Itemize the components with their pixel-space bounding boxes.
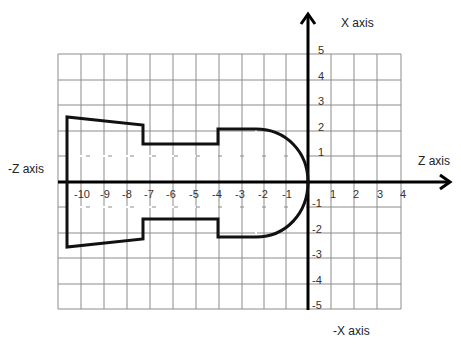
x-tick-label: -5: [312, 300, 322, 311]
x-tick-label: 2: [318, 122, 324, 133]
z-tick-label: 4: [400, 189, 406, 200]
z-tick-label: -4: [212, 189, 222, 200]
z-tick-label: -8: [122, 189, 132, 200]
x-tick-label: -4: [312, 275, 322, 286]
z-tick-label: -7: [144, 189, 154, 200]
z-tick-label: -2: [258, 189, 268, 200]
x-axis-label: X axis: [341, 17, 374, 29]
neg-z-axis-label: -Z axis: [8, 163, 44, 175]
z-tick-label: 2: [353, 189, 359, 200]
neg-x-axis-label: -X axis: [333, 325, 370, 337]
coordinate-diagram: X axis -X axis Z axis -Z axis -10-9-8-7-…: [0, 0, 461, 349]
z-tick-label: -5: [189, 189, 199, 200]
x-tick-label: -3: [312, 249, 322, 260]
z-tick-label: -10: [74, 189, 90, 200]
z-tick-label: -3: [235, 189, 245, 200]
axes: [58, 14, 450, 310]
x-tick-label: 3: [318, 96, 324, 107]
z-axis-label: Z axis: [418, 155, 450, 167]
x-tick-label: 4: [318, 71, 324, 82]
x-tick-label: -1: [312, 198, 322, 209]
diagram-canvas: [0, 0, 461, 349]
x-tick-label: -2: [312, 224, 322, 235]
z-tick-label: -6: [166, 189, 176, 200]
z-tick-label: -9: [100, 189, 110, 200]
z-tick-label: 3: [377, 189, 383, 200]
x-tick-label: 5: [318, 45, 324, 56]
z-tick-label: -1: [282, 189, 292, 200]
x-tick-label: 1: [318, 147, 324, 158]
z-tick-label: 1: [330, 189, 336, 200]
